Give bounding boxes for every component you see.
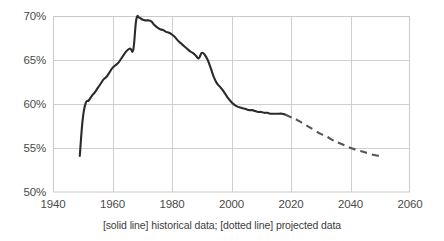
y-axis-tick-label: 60%	[24, 98, 46, 110]
x-axis-tick-labels: 1940196019802000202020402060	[41, 198, 423, 210]
chart-caption: [solid line] historical data; [dotted li…	[0, 219, 444, 231]
x-axis-tick-label: 2020	[279, 198, 304, 210]
x-axis-tick-label: 1960	[100, 198, 125, 210]
x-axis-tick-label: 2040	[338, 198, 363, 210]
x-axis-tick-label: 2060	[398, 198, 423, 210]
y-axis-tick-label: 55%	[24, 142, 46, 154]
y-axis-tick-label: 65%	[24, 54, 46, 66]
line-chart: 50%55%60%65%70% 194019601980200020202040…	[0, 0, 444, 241]
x-axis-tick-label: 1980	[160, 198, 185, 210]
chart-figure: 50%55%60%65%70% 194019601980200020202040…	[0, 0, 444, 241]
grid-lines	[53, 16, 410, 192]
historical-data-line	[80, 16, 285, 156]
horizontal-grid-lines	[53, 17, 410, 149]
x-axis-tick-label: 1940	[41, 198, 66, 210]
x-axis-tick-label: 2000	[219, 198, 244, 210]
y-axis-tick-labels: 50%55%60%65%70%	[24, 10, 46, 198]
y-axis-tick-label: 50%	[24, 186, 46, 198]
y-axis-tick-label: 70%	[24, 10, 46, 22]
projected-data-line	[285, 115, 380, 156]
